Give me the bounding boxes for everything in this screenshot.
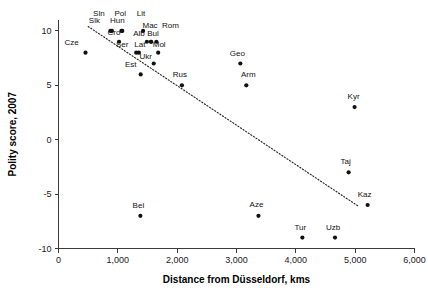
point-label-cro: Cro xyxy=(108,28,121,37)
y-tick-label: -10 xyxy=(38,244,51,254)
y-tick-label: -5 xyxy=(43,189,51,199)
point-marker xyxy=(333,236,337,240)
scatter-plot: 01,0002,0003,0004,0005,0006,0001050-5-10… xyxy=(0,0,428,295)
data-point: Uzb xyxy=(326,223,341,240)
point-label-lit: Lit xyxy=(137,9,146,18)
point-label-kyr: Kyr xyxy=(348,92,360,101)
x-tick-label: 1,000 xyxy=(107,255,130,265)
data-point: Arm xyxy=(241,70,256,87)
point-label-lat: Lat xyxy=(134,40,146,49)
data-point: Ukr xyxy=(140,52,156,66)
point-marker xyxy=(352,105,356,109)
point-marker xyxy=(256,214,260,218)
x-tick-label: 4,000 xyxy=(285,255,308,265)
axis-titles: Distance from Düsseldorf, kmsPolity scor… xyxy=(7,92,311,285)
point-label-rom: Rom xyxy=(162,21,179,30)
point-marker xyxy=(138,214,142,218)
point-marker xyxy=(244,83,248,87)
y-axis-title: Polity score, 2007 xyxy=(7,92,18,177)
point-label-slk: Slk xyxy=(89,16,101,25)
point-label-bel: Bel xyxy=(133,201,145,210)
point-label-geo: Geo xyxy=(230,49,246,58)
point-label-mol: Mol xyxy=(153,40,166,49)
point-marker xyxy=(83,51,87,55)
point-marker xyxy=(238,61,242,65)
point-label-arm: Arm xyxy=(241,70,256,79)
data-point: Geo xyxy=(230,49,246,66)
x-tick-label: 5,000 xyxy=(344,255,367,265)
y-tick-label: 0 xyxy=(46,135,51,145)
data-point: Kyr xyxy=(348,92,360,109)
x-tick-label: 6,000 xyxy=(403,255,426,265)
point-label-alb: Alb xyxy=(133,29,145,38)
point-marker xyxy=(347,170,351,174)
data-point: Aze xyxy=(250,200,264,218)
point-marker xyxy=(300,236,304,240)
point-marker xyxy=(152,61,156,65)
data-point: Mol xyxy=(153,40,166,55)
point-marker xyxy=(156,51,160,55)
point-marker xyxy=(366,203,370,207)
point-label-rus: Rus xyxy=(173,70,187,79)
trendline xyxy=(88,27,358,207)
point-label-aze: Aze xyxy=(250,200,264,209)
data-point: Rus xyxy=(173,70,187,87)
point-marker xyxy=(139,72,143,76)
data-point: Tur xyxy=(295,223,307,240)
point-label-uzb: Uzb xyxy=(326,223,341,232)
data-points: CzeSlnSlkPolHunCroSerLatLitAlbMacBulRomM… xyxy=(64,9,371,240)
data-point: Taj xyxy=(341,157,351,174)
y-tick-label: 10 xyxy=(41,26,51,36)
chart-container: 01,0002,0003,0004,0005,0006,0001050-5-10… xyxy=(0,0,428,295)
point-label-bul: Bul xyxy=(147,29,159,38)
data-point: Est xyxy=(125,60,143,76)
trend-line xyxy=(88,27,358,207)
y-tick-label: 5 xyxy=(46,80,51,90)
point-label-tur: Tur xyxy=(295,223,307,232)
data-point: Cze xyxy=(64,38,87,55)
point-label-est: Est xyxy=(125,60,137,69)
x-tick-label: 3,000 xyxy=(225,255,248,265)
point-label-ukr: Ukr xyxy=(140,52,153,61)
point-label-kaz: Kaz xyxy=(358,190,372,199)
data-point: Bel xyxy=(133,201,145,218)
data-point: Kaz xyxy=(358,190,372,207)
point-label-hun: Hun xyxy=(110,16,125,25)
point-label-ser: Ser xyxy=(116,40,129,49)
x-tick-label: 2,000 xyxy=(166,255,189,265)
point-label-cze: Cze xyxy=(64,38,79,47)
point-marker xyxy=(180,83,184,87)
x-tick-label: 0 xyxy=(56,255,61,265)
x-axis-title: Distance from Düsseldorf, kms xyxy=(163,274,311,285)
point-label-taj: Taj xyxy=(341,157,351,166)
point-marker xyxy=(145,40,149,44)
